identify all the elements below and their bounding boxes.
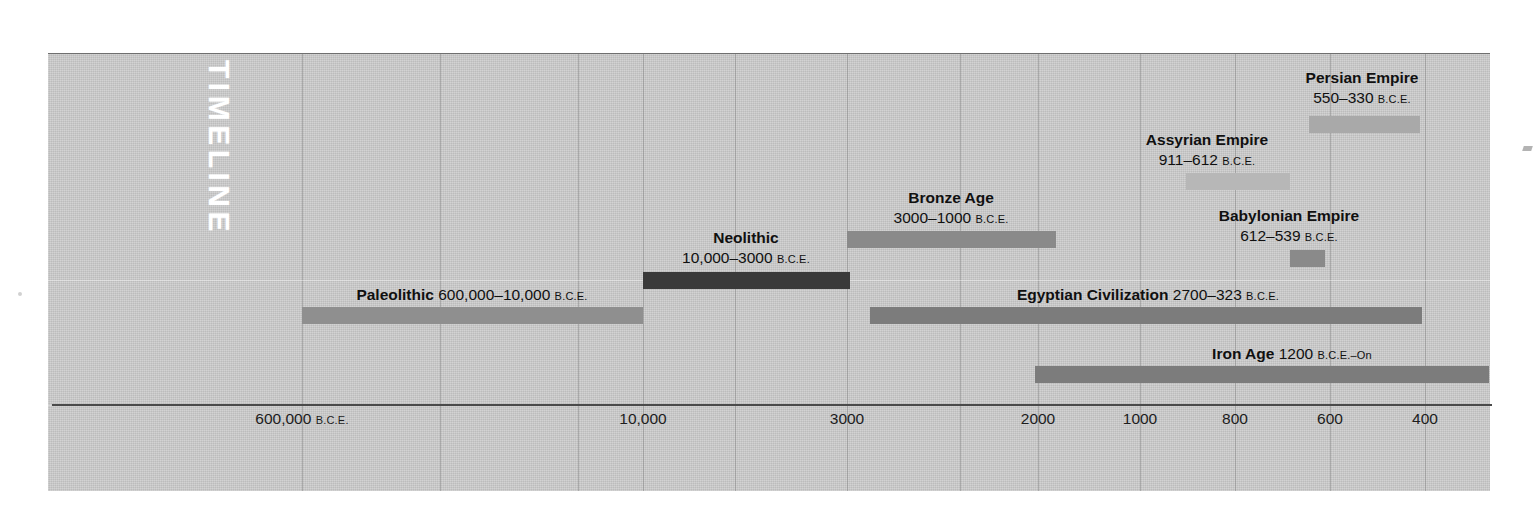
event-title-egyptian-civilization: Egyptian Civilization (1017, 286, 1173, 303)
tick-label-1000: 1000 (1123, 410, 1157, 428)
tick-label-400: 400 (1412, 410, 1438, 428)
event-range-neolithic: 10,000–3000 B.C.E. (682, 248, 810, 268)
event-era-paleolithic: B.C.E. (555, 290, 588, 302)
edge-artifact-mark (1522, 146, 1533, 151)
event-range-persian-empire: 550–330 B.C.E. (1306, 88, 1419, 108)
tick-label-600000: 600,000 B.C.E. (255, 410, 348, 428)
event-range-egyptian-civilization: 2700–323 (1173, 286, 1246, 303)
timeline-bar-persian-empire[interactable] (1309, 116, 1420, 133)
tick-label-10000: 10,000 (619, 410, 666, 428)
scan-smudge (18, 292, 22, 296)
timeline-bar-egyptian-civilization[interactable] (870, 307, 1422, 324)
event-range-assyrian-empire: 911–612 B.C.E. (1146, 150, 1268, 170)
timeline-bar-paleolithic[interactable] (302, 307, 643, 324)
gridline (578, 54, 579, 491)
event-era-egyptian-civilization: B.C.E. (1246, 290, 1279, 302)
event-label-neolithic: Neolithic10,000–3000 B.C.E. (682, 228, 810, 268)
event-title-bronze-age: Bronze Age (894, 188, 1009, 208)
tick-label-800: 800 (1222, 410, 1248, 428)
event-title-assyrian-empire: Assyrian Empire (1146, 130, 1268, 150)
event-label-egyptian-civilization: Egyptian Civilization 2700–323 B.C.E. (1017, 285, 1279, 305)
gridline (440, 54, 441, 491)
event-title-paleolithic: Paleolithic (356, 286, 438, 303)
event-label-persian-empire: Persian Empire550–330 B.C.E. (1306, 68, 1419, 108)
event-era-iron-age: B.C.E.–On (1318, 349, 1372, 361)
event-label-babylonian-empire: Babylonian Empire612–539 B.C.E. (1219, 206, 1359, 246)
tick-label-600: 600 (1317, 410, 1343, 428)
timeline-bar-iron-age[interactable] (1035, 366, 1489, 383)
tick-label-3000: 3000 (830, 410, 864, 428)
event-title-neolithic: Neolithic (682, 228, 810, 248)
event-label-iron-age: Iron Age 1200 B.C.E.–On (1212, 344, 1372, 364)
timeline-bar-bronze-age[interactable] (847, 231, 1056, 248)
event-title-iron-age: Iron Age (1212, 345, 1279, 362)
event-range-paleolithic: 600,000–10,000 (438, 286, 554, 303)
time-axis-line (52, 404, 1492, 406)
event-title-persian-empire: Persian Empire (1306, 68, 1419, 88)
timeline-vertical-title: TIMELINE (202, 60, 236, 270)
event-range-iron-age: 1200 (1279, 345, 1318, 362)
timeline-bar-babylonian-empire[interactable] (1290, 250, 1325, 267)
event-label-assyrian-empire: Assyrian Empire911–612 B.C.E. (1146, 130, 1268, 170)
timeline-bar-assyrian-empire[interactable] (1186, 173, 1290, 190)
event-label-bronze-age: Bronze Age3000–1000 B.C.E. (894, 188, 1009, 228)
gridline (960, 54, 961, 491)
timeline-figure: TIMELINE Paleolithic 600,000–10,000 B.C.… (0, 0, 1533, 510)
event-range-bronze-age: 3000–1000 B.C.E. (894, 208, 1009, 228)
event-label-paleolithic: Paleolithic 600,000–10,000 B.C.E. (356, 285, 587, 305)
event-range-babylonian-empire: 612–539 B.C.E. (1219, 226, 1359, 246)
timeline-bar-neolithic[interactable] (643, 272, 850, 289)
event-title-babylonian-empire: Babylonian Empire (1219, 206, 1359, 226)
tick-label-2000: 2000 (1021, 410, 1055, 428)
